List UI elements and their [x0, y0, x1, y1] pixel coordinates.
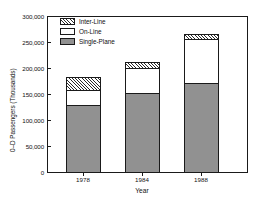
ytick-mark-300000	[48, 16, 51, 17]
xtick-label-1978: 1978	[63, 176, 103, 183]
legend: Inter-Line On-Line Single-Plane	[60, 17, 135, 49]
legend-item-on-line: On-Line	[60, 28, 101, 35]
ytick-mark-50000	[48, 146, 51, 147]
bar-segment-on-line-1984	[125, 68, 160, 94]
ytick-mark-200000	[48, 68, 51, 69]
legend-label-single-plane: Single-Plane	[79, 38, 115, 45]
ytick-mark-0	[48, 172, 51, 173]
legend-swatch-hatch-icon	[60, 18, 75, 25]
legend-item-single-plane: Single-Plane	[60, 38, 115, 45]
legend-swatch-white-icon	[60, 28, 75, 35]
bar-segment-on-line-1988	[184, 39, 219, 84]
bar-segment-single-plane-1984	[125, 93, 160, 173]
x-axis-title: Year	[117, 187, 167, 194]
y-axis-title: 0–D Passengers (Thousands)	[9, 68, 16, 152]
xtick-label-1984: 1984	[122, 176, 162, 183]
legend-label-on-line: On-Line	[79, 28, 101, 35]
legend-item-inter-line: Inter-Line	[60, 18, 106, 25]
ytick-label-250000: 250,000	[8, 39, 44, 46]
legend-swatch-solid-icon	[60, 38, 75, 45]
bar-segment-on-line-1978	[66, 90, 101, 106]
bar-segment-inter-line-1988	[184, 34, 219, 40]
bar-segment-inter-line-1978	[66, 77, 101, 91]
ytick-mark-250000	[48, 42, 51, 43]
bar-segment-single-plane-1978	[66, 105, 101, 173]
bar-segment-single-plane-1988	[184, 83, 219, 173]
axis-right	[247, 16, 248, 173]
xtick-label-1988: 1988	[181, 176, 221, 183]
ytick-label-0: 0	[8, 169, 44, 176]
chart-container: 300,000 250,000 200,000 150,000 100,000 …	[0, 0, 257, 203]
bar-segment-inter-line-1984	[125, 62, 160, 69]
ytick-mark-100000	[48, 120, 51, 121]
legend-label-inter-line: Inter-Line	[79, 18, 106, 25]
ytick-label-300000: 300,000	[8, 13, 44, 20]
ytick-mark-150000	[48, 94, 51, 95]
